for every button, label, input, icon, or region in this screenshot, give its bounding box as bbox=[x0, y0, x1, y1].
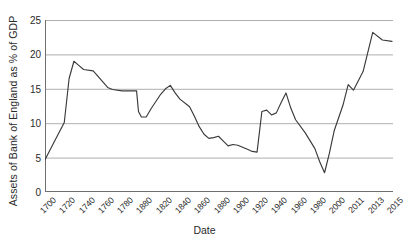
x-axis-tick-label: 2013 bbox=[365, 195, 385, 215]
x-axis-title: Date bbox=[0, 224, 409, 236]
x-axis-tick-label: 1760 bbox=[96, 195, 116, 215]
y-axis-tick-label: 10 bbox=[30, 118, 41, 129]
line-chart-svg bbox=[45, 20, 393, 192]
x-axis-tick-label: 1860 bbox=[192, 195, 212, 215]
x-axis-tick-label: 1720 bbox=[57, 195, 77, 215]
x-axis-tick-label: 1840 bbox=[173, 195, 193, 215]
y-axis-tick-label: 20 bbox=[30, 49, 41, 60]
y-axis-tick-label: 15 bbox=[30, 83, 41, 94]
chart-container: Assets of Bank of England as % of GDP 05… bbox=[0, 0, 409, 245]
x-axis-tick-label: 1900 bbox=[231, 195, 251, 215]
plot-area: 0510152025 17001720174017601780188018201… bbox=[45, 20, 393, 192]
x-axis-tick-label: 1880 bbox=[211, 195, 231, 215]
y-axis-tick-label: 0 bbox=[35, 187, 41, 198]
y-axis-title: Assets of Bank of England as % of GDP bbox=[6, 16, 20, 206]
x-axis-tick-label: 1880 bbox=[134, 195, 154, 215]
y-axis-title-text: Assets of Bank of England as % of GDP bbox=[7, 16, 19, 206]
x-axis-tick-label: 2000 bbox=[327, 195, 347, 215]
x-axis-tick-label: 1740 bbox=[76, 195, 96, 215]
y-axis-tick-label: 5 bbox=[35, 152, 41, 163]
x-axis-tick-label: 2015 bbox=[385, 195, 405, 215]
x-axis-tick-label: 1920 bbox=[250, 195, 270, 215]
y-axis-tick-label: 25 bbox=[30, 15, 41, 26]
x-axis-tick-label: 1780 bbox=[115, 195, 135, 215]
x-axis-tick-label: 1940 bbox=[269, 195, 289, 215]
x-axis-tick-label: 1820 bbox=[153, 195, 173, 215]
x-axis-tick-label: 1700 bbox=[38, 195, 58, 215]
x-axis-tick-label: 1980 bbox=[308, 195, 328, 215]
x-axis-tick-label: 2011 bbox=[347, 195, 367, 215]
axis-lines bbox=[45, 20, 393, 192]
x-axis-tick-label: 1960 bbox=[288, 195, 308, 215]
data-series-line bbox=[45, 32, 392, 172]
